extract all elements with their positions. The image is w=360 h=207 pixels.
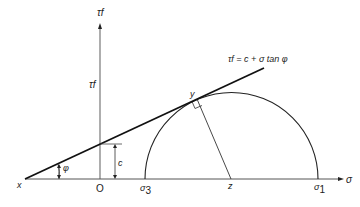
mohr-coulomb-diagram: τf τf σ x O σ3 z σ1 y c φ τf = c + σ tan…	[0, 0, 360, 207]
sigma-axis	[25, 177, 344, 181]
phi-angle-marker	[57, 164, 61, 179]
sigma3-label: σ3	[140, 183, 151, 196]
cohesion-label: c	[118, 158, 123, 168]
tau-axis-side-label: τf	[89, 79, 97, 90]
envelope-equation-label: τf = c + σ tan φ	[228, 54, 288, 64]
tau-axis	[98, 23, 102, 179]
tau-axis-top-label: τf	[97, 7, 105, 18]
sigma-axis-label: σ	[346, 174, 353, 185]
tau-axis-arrow-icon	[98, 23, 102, 29]
origin-label: O	[96, 183, 104, 194]
failure-envelope-line	[25, 68, 264, 179]
mohr-circle	[145, 92, 318, 179]
radius-line	[197, 99, 231, 179]
phi-angle-label: φ	[63, 163, 69, 173]
point-x-label: x	[16, 180, 22, 190]
sigma-axis-arrow-icon	[338, 177, 344, 181]
tangent-point-y-label: y	[189, 89, 195, 99]
sigma1-label: σ1	[314, 182, 325, 195]
center-z-label: z	[227, 181, 233, 191]
